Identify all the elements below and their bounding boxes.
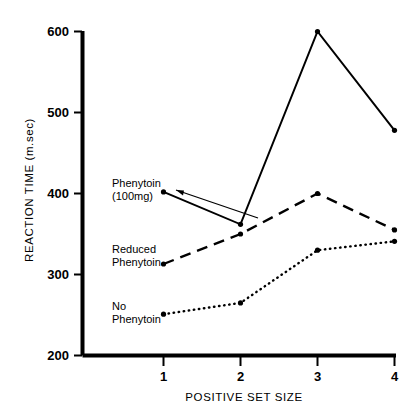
data-point xyxy=(161,312,166,317)
data-point xyxy=(315,248,320,253)
y-tick-label-300: 300 xyxy=(47,267,69,282)
series-label-phenytoin-100mg-line2: (100mg) xyxy=(112,190,153,202)
series-label-no-phenytoin-line1: No xyxy=(112,300,126,312)
data-point xyxy=(238,231,243,236)
y-axis-title: REACTION TIME (m.sec) xyxy=(23,118,35,262)
series-label-reduced-phenytoin-line2: Phenytoin xyxy=(112,256,161,268)
data-point xyxy=(161,261,166,266)
y-tick-label-500: 500 xyxy=(47,105,69,120)
y-tick-label-600: 600 xyxy=(47,24,69,39)
x-tick-label-4: 4 xyxy=(391,369,399,384)
data-point xyxy=(315,29,320,34)
x-tick-label-3: 3 xyxy=(314,369,321,384)
x-axis-title: POSITIVE SET SIZE xyxy=(185,391,302,403)
data-point xyxy=(392,239,397,244)
chart-figure: 600 500 400 300 200 1 2 3 4 REACTION TIM… xyxy=(0,0,420,420)
x-tick-label-1: 1 xyxy=(160,369,167,384)
data-point xyxy=(392,128,397,133)
data-point xyxy=(392,227,397,232)
data-point xyxy=(238,222,243,227)
data-point xyxy=(315,191,320,196)
data-point xyxy=(238,300,243,305)
y-tick-label-400: 400 xyxy=(47,186,69,201)
series-label-reduced-phenytoin-line1: Reduced xyxy=(112,243,156,255)
line-chart: 600 500 400 300 200 1 2 3 4 REACTION TIM… xyxy=(0,0,420,420)
y-tick-label-200: 200 xyxy=(47,348,69,363)
series-label-no-phenytoin-line2: Phenytoin xyxy=(112,313,161,325)
series-label-phenytoin-100mg-line1: Phenytoin xyxy=(112,177,161,189)
x-tick-label-2: 2 xyxy=(237,369,244,384)
data-point xyxy=(161,189,166,194)
